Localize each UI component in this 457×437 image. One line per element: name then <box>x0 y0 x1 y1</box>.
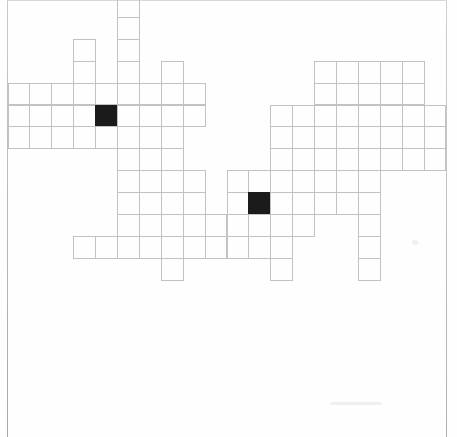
crossword-cell[interactable] <box>270 126 293 149</box>
crossword-cell[interactable] <box>183 170 206 193</box>
crossword-cell[interactable] <box>270 192 293 215</box>
crossword-cell[interactable] <box>336 83 359 106</box>
crossword-cell[interactable] <box>205 236 228 259</box>
crossword-cell[interactable] <box>227 214 250 237</box>
crossword-cell[interactable] <box>117 17 140 40</box>
crossword-cell[interactable] <box>358 105 381 128</box>
crossword-cell[interactable] <box>270 148 293 171</box>
crossword-cell[interactable] <box>117 236 140 259</box>
crossword-cell[interactable] <box>358 170 381 193</box>
crossword-cell[interactable] <box>183 83 206 106</box>
crossword-cell[interactable] <box>380 105 403 128</box>
crossword-cell[interactable] <box>51 105 74 128</box>
crossword-cell[interactable] <box>314 105 337 128</box>
crossword-cell[interactable] <box>314 126 337 149</box>
crossword-cell[interactable] <box>95 83 118 106</box>
crossword-cell[interactable] <box>358 126 381 149</box>
crossword-cell[interactable] <box>358 148 381 171</box>
crossword-grid[interactable] <box>0 0 457 437</box>
crossword-cell[interactable] <box>336 105 359 128</box>
crossword-cell[interactable] <box>117 170 140 193</box>
crossword-cell[interactable] <box>73 61 96 84</box>
crossword-cell[interactable] <box>29 105 52 128</box>
crossword-cell[interactable] <box>95 126 118 149</box>
crossword-cell[interactable] <box>183 192 206 215</box>
crossword-cell[interactable] <box>73 39 96 62</box>
crossword-cell[interactable] <box>29 126 52 149</box>
crossword-cell[interactable] <box>161 192 184 215</box>
crossword-cell[interactable] <box>117 105 140 128</box>
crossword-cell[interactable] <box>358 236 381 259</box>
crossword-cell[interactable] <box>402 148 425 171</box>
crossword-cell[interactable] <box>402 83 425 106</box>
crossword-cell[interactable] <box>336 170 359 193</box>
crossword-cell[interactable] <box>248 214 271 237</box>
crossword-cell[interactable] <box>380 61 403 84</box>
crossword-cell[interactable] <box>292 170 315 193</box>
crossword-cell[interactable] <box>139 236 162 259</box>
crossword-cell[interactable] <box>292 214 315 237</box>
crossword-cell[interactable] <box>292 126 315 149</box>
crossword-cell[interactable] <box>73 126 96 149</box>
crossword-cell[interactable] <box>117 0 140 18</box>
crossword-cell[interactable] <box>292 148 315 171</box>
crossword-cell[interactable] <box>380 148 403 171</box>
crossword-cell[interactable] <box>183 236 206 259</box>
crossword-cell[interactable] <box>117 39 140 62</box>
crossword-cell[interactable] <box>292 192 315 215</box>
crossword-cell[interactable] <box>73 105 96 128</box>
crossword-cell[interactable] <box>161 214 184 237</box>
crossword-cell[interactable] <box>402 126 425 149</box>
crossword-cell[interactable] <box>51 126 74 149</box>
crossword-cell[interactable] <box>292 105 315 128</box>
crossword-cell[interactable] <box>358 258 381 281</box>
crossword-cell[interactable] <box>73 83 96 106</box>
crossword-cell[interactable] <box>161 148 184 171</box>
crossword-cell[interactable] <box>161 126 184 149</box>
crossword-cell[interactable] <box>161 105 184 128</box>
crossword-cell[interactable] <box>358 83 381 106</box>
crossword-cell[interactable] <box>183 214 206 237</box>
crossword-cell[interactable] <box>73 236 96 259</box>
crossword-cell[interactable] <box>380 83 403 106</box>
crossword-cell[interactable] <box>227 192 250 215</box>
crossword-cell[interactable] <box>117 214 140 237</box>
crossword-cell[interactable] <box>139 192 162 215</box>
crossword-cell[interactable] <box>8 126 31 149</box>
crossword-cell[interactable] <box>117 126 140 149</box>
crossword-cell[interactable] <box>270 236 293 259</box>
crossword-cell[interactable] <box>248 170 271 193</box>
crossword-cell[interactable] <box>314 148 337 171</box>
crossword-cell[interactable] <box>270 258 293 281</box>
crossword-cell[interactable] <box>205 214 228 237</box>
crossword-cell[interactable] <box>161 83 184 106</box>
crossword-cell[interactable] <box>161 61 184 84</box>
crossword-cell[interactable] <box>51 83 74 106</box>
crossword-cell[interactable] <box>117 83 140 106</box>
crossword-cell[interactable] <box>314 61 337 84</box>
crossword-cell[interactable] <box>358 214 381 237</box>
crossword-cell[interactable] <box>117 148 140 171</box>
crossword-cell[interactable] <box>161 258 184 281</box>
crossword-cell[interactable] <box>336 61 359 84</box>
crossword-cell[interactable] <box>270 214 293 237</box>
crossword-cell[interactable] <box>139 170 162 193</box>
crossword-cell[interactable] <box>424 126 447 149</box>
crossword-cell[interactable] <box>161 236 184 259</box>
crossword-cell[interactable] <box>314 192 337 215</box>
crossword-cell[interactable] <box>402 61 425 84</box>
crossword-cell[interactable] <box>358 192 381 215</box>
crossword-cell[interactable] <box>183 105 206 128</box>
crossword-cell[interactable] <box>402 105 425 128</box>
crossword-cell[interactable] <box>29 83 52 106</box>
crossword-cell[interactable] <box>380 126 403 149</box>
crossword-cell[interactable] <box>8 83 31 106</box>
crossword-cell[interactable] <box>424 148 447 171</box>
crossword-cell[interactable] <box>336 148 359 171</box>
crossword-cell[interactable] <box>227 170 250 193</box>
crossword-cell[interactable] <box>139 214 162 237</box>
crossword-cell[interactable] <box>139 126 162 149</box>
crossword-cell[interactable] <box>336 126 359 149</box>
crossword-cell[interactable] <box>139 105 162 128</box>
crossword-cell[interactable] <box>424 105 447 128</box>
